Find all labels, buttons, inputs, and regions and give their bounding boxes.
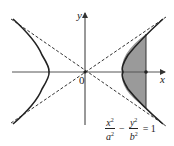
origin-label: 0 [79,74,85,86]
hyperbola-equation: x2 a2 − y2 b2 = 1 [104,115,159,142]
y-axis-label: y [77,10,82,21]
hyperbola-diagram: x y 0 x2 a2 − y2 b2 = 1 [0,0,174,146]
fraction-x: x2 a2 [105,115,115,142]
x-axis-label: x [160,74,165,85]
equals-one: = 1 [143,123,156,134]
minus-sign: − [119,123,125,134]
x-axis-point [144,70,148,74]
fraction-y: y2 b2 [129,115,139,142]
